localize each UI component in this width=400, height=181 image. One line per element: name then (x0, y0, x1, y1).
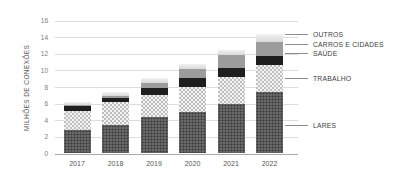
legend-item-trabalho: TRABALHO (285, 74, 351, 82)
bar-2021-segment-carros (218, 55, 245, 68)
y-tick-label-16: 16 (30, 18, 48, 24)
bar-2021-segment-lares (218, 104, 245, 153)
bar-2017-segment-lares (64, 130, 91, 153)
bar-2021-segment-trabalho (218, 77, 245, 104)
x-tick-label-2022: 2022 (251, 160, 289, 167)
legend-connector-line (285, 34, 308, 35)
bar-2019-segment-lares (141, 117, 168, 153)
legend-item-outros: OUTROS (285, 30, 343, 38)
legend-label: TRABALHO (313, 75, 351, 82)
bar-2019-segment-trabalho (141, 95, 168, 117)
bar-2020-segment-saude (179, 78, 206, 87)
y-tick-label-10: 10 (30, 68, 48, 74)
legend-connector-line (285, 125, 308, 126)
bar-2022-segment-trabalho (256, 65, 283, 92)
bar-2022-segment-lares (256, 92, 283, 153)
bar-2020-segment-trabalho (179, 87, 206, 112)
bar-2020 (179, 64, 206, 153)
y-tick-label-4: 4 (30, 118, 48, 124)
x-tick-label-2019: 2019 (135, 160, 173, 167)
legend-label: OUTROS (313, 31, 343, 38)
x-tick-label-2017: 2017 (58, 160, 96, 167)
y-tick-label-6: 6 (30, 101, 48, 107)
bar-2018 (102, 92, 129, 153)
legend-connector-line (285, 53, 308, 54)
legend-item-sa-de: SAÚDE (285, 49, 337, 57)
x-tick-label-2021: 2021 (212, 160, 250, 167)
y-tick-label-0: 0 (30, 151, 48, 157)
legend-item-carros-e-cidades: CARROS E CIDADES (285, 40, 384, 48)
bar-2019-segment-saude (141, 88, 168, 95)
x-axis-line (55, 154, 298, 155)
x-tick-label-2020: 2020 (174, 160, 212, 167)
legend-connector-line (285, 78, 308, 79)
legend-label: LARES (313, 122, 336, 129)
bar-2022-segment-saude (256, 56, 283, 65)
y-tick-label-12: 12 (30, 51, 48, 57)
bar-2018-segment-lares (102, 125, 129, 153)
bar-2021-segment-saude (218, 68, 245, 76)
stacked-bar-chart: MILHÕES DE CONEXÕES 0246810121416 201720… (0, 0, 400, 181)
bar-2022 (256, 34, 283, 153)
bar-2022-segment-carros (256, 42, 283, 55)
bar-2020-segment-lares (179, 112, 206, 153)
y-tick-label-14: 14 (30, 35, 48, 41)
gridline-16 (55, 21, 298, 22)
bar-2021 (218, 50, 245, 153)
bar-2017-segment-trabalho (64, 111, 91, 130)
legend-label: CARROS E CIDADES (313, 41, 384, 48)
bar-2022-segment-outros (256, 34, 283, 42)
bar-2020-segment-carros (179, 69, 206, 78)
y-tick-label-2: 2 (30, 134, 48, 140)
bar-2017 (64, 102, 91, 153)
y-tick-label-8: 8 (30, 85, 48, 91)
legend-item-lares: LARES (285, 121, 336, 129)
x-tick-label-2018: 2018 (97, 160, 135, 167)
bar-2019 (141, 78, 168, 153)
legend-connector-line (285, 44, 308, 45)
legend-label: SAÚDE (313, 50, 337, 57)
bar-2018-segment-trabalho (102, 102, 129, 124)
plot-area (55, 21, 298, 154)
